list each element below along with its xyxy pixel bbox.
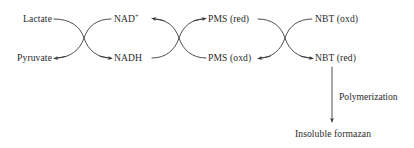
node-pyruvate: Pyruvate	[17, 53, 52, 63]
curve-nbtoxd-to-pmsoxd	[260, 19, 312, 58]
node-insoluble-formazan: Insoluble formazan	[295, 129, 371, 139]
node-nad-plus-base: NAD	[114, 13, 135, 24]
curve-nadplus-to-pyruvate	[56, 19, 111, 58]
node-lactate: Lactate	[23, 14, 52, 24]
node-pms-red: PMS (red)	[208, 14, 249, 24]
arrowhead-into-pmsoxd	[258, 56, 270, 58]
arrowhead-into-nadplus	[152, 18, 164, 20]
curve-pmsoxd-to-nadplus	[154, 19, 206, 58]
arrowhead-into-pyruvate	[54, 56, 66, 58]
reaction-diagram: Lactate Pyruvate NAD+ NADH PMS (red) PMS…	[0, 0, 414, 148]
curve-nadh-to-pmsred	[152, 19, 204, 58]
arrowhead-into-nbtred	[301, 56, 313, 58]
arrowhead-into-nadh	[100, 56, 112, 58]
node-pms-oxd: PMS (oxd)	[208, 53, 251, 63]
node-nbt-red: NBT (red)	[315, 53, 356, 63]
curve-lactate-to-nadh	[54, 19, 111, 58]
arrowhead-into-pmsred	[194, 18, 206, 20]
edge-label-polymerization: Polymerization	[339, 92, 398, 102]
node-nad-plus-superscript: +	[135, 12, 139, 19]
node-nbt-oxd: NBT (oxd)	[315, 14, 358, 24]
node-nadh: NADH	[114, 53, 142, 63]
node-nad-plus: NAD+	[114, 14, 139, 24]
